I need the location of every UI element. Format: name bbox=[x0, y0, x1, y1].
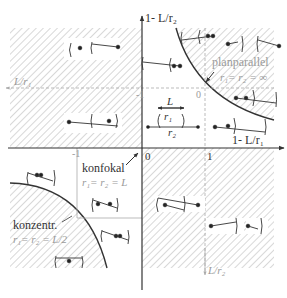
planparallel-eq: r₁= r₂ = ∞ bbox=[220, 71, 267, 83]
stability-diagram: 1- L/r₂ 1- L/r₁ L/r₁ L/r₂ 0 1 -1 0 -1 pl… bbox=[0, 0, 287, 298]
legend-r1: r₁ bbox=[164, 110, 172, 122]
x-axis-label: 1- L/r₁ bbox=[232, 133, 264, 147]
aux-tick-minus1-left: -1 bbox=[72, 148, 80, 159]
y-axis-label: 1- L/r₂ bbox=[145, 11, 177, 25]
tick-one: 1 bbox=[207, 150, 213, 162]
aux-x-label: L/r₁ bbox=[13, 75, 31, 87]
legend-L: L bbox=[166, 95, 173, 107]
resonator-legend: L r₁ r₂ bbox=[146, 95, 200, 138]
diagram-canvas: 1- L/r₂ 1- L/r₁ L/r₁ L/r₂ 0 1 -1 0 -1 pl… bbox=[0, 0, 287, 298]
mirror-bg bbox=[64, 38, 120, 60]
aux-tick-minus1: -1 bbox=[136, 89, 144, 100]
konfokal-eq: r₁= r₂ = L bbox=[82, 176, 127, 188]
konzentr-eq: r₁= r₂ = L/2 bbox=[13, 233, 67, 245]
aux-tick-zero: 0 bbox=[196, 89, 201, 100]
konfokal-label: konfokal bbox=[82, 161, 125, 175]
planparallel-label: planparallel bbox=[212, 55, 269, 69]
konzentr-label: konzentr. bbox=[13, 218, 57, 232]
mirror-bg bbox=[64, 113, 122, 133]
aux-y-label: L/r₂ bbox=[207, 264, 225, 276]
legend-r2: r₂ bbox=[168, 126, 176, 138]
konfokal-arrow bbox=[126, 153, 138, 165]
tick-origin: 0 bbox=[145, 150, 151, 162]
